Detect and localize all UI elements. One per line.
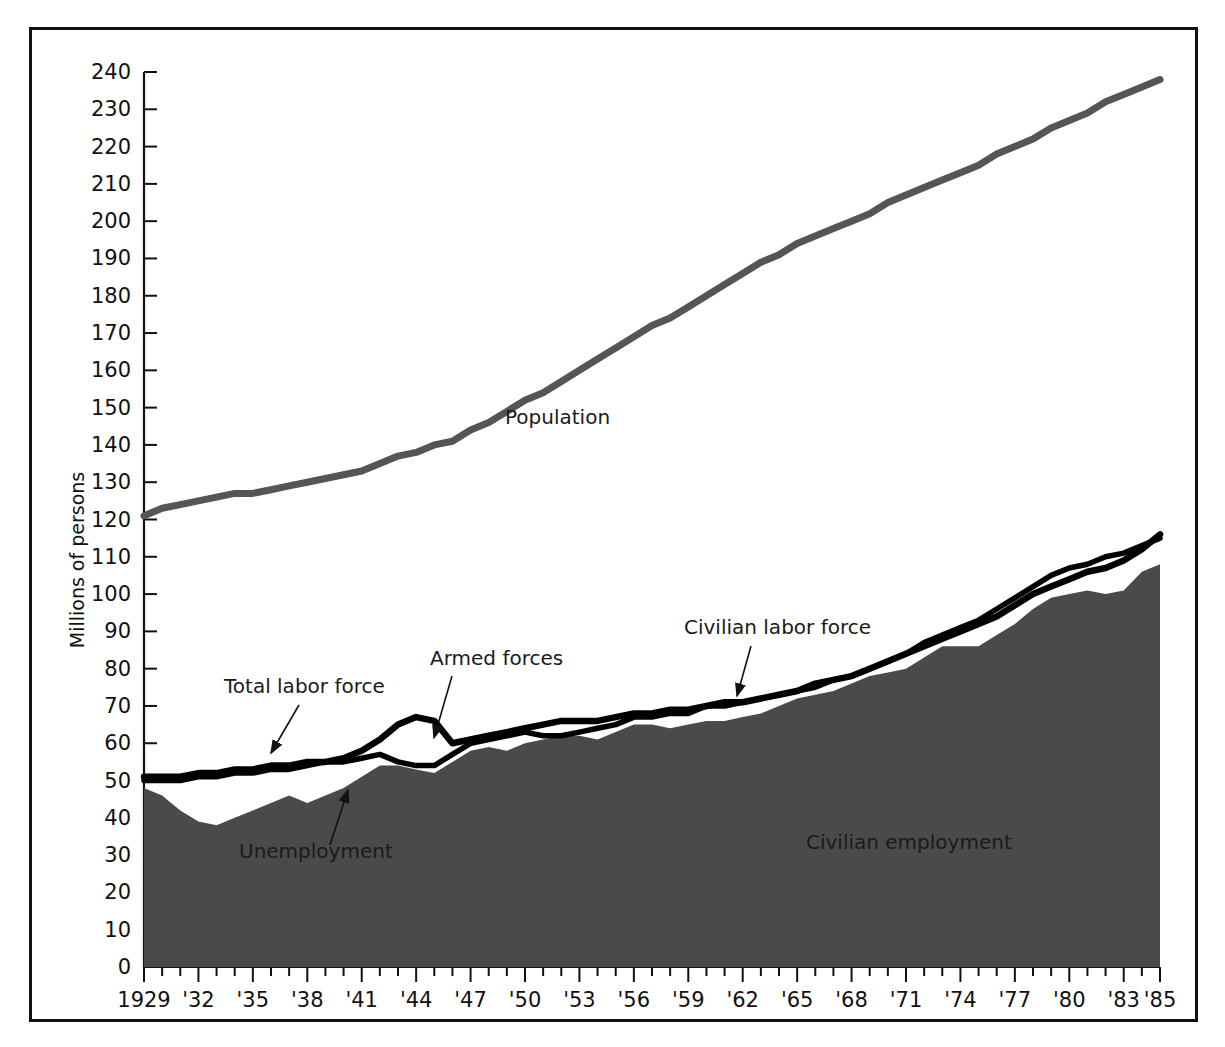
y-axis-tick-label: 10 [104,918,131,942]
annotation-label-unemployment: Unemployment [239,839,393,863]
y-axis-tick-label: 180 [91,284,131,308]
annotation-label-civilian-employment: Civilian employment [806,830,1012,854]
y-axis-tick-label: 160 [91,358,131,382]
y-axis-tick-label: 210 [91,172,131,196]
y-axis-tick-label: 110 [91,545,131,569]
annotation-label-armed-forces: Armed forces [430,646,563,670]
y-axis-tick-label: 170 [91,321,131,345]
x-axis-tick-label: '38 [291,988,324,1012]
x-axis-tick-label: 1929 [117,988,170,1012]
x-axis-tick-label: '85 [1144,988,1177,1012]
y-axis-tick-label: 0 [118,955,131,979]
annotation-label-population: Population [505,405,610,429]
x-axis-tick-label: '35 [237,988,270,1012]
x-axis-tick-label: '71 [890,988,923,1012]
labor-force-chart: 0102030405060708090100110120130140150160… [0,0,1225,1047]
y-axis-tick-label: 140 [91,433,131,457]
x-axis-tick-label: '32 [182,988,215,1012]
annotation-label-total-labor-force: Total labor force [223,674,385,698]
y-axis-tick-label: 230 [91,97,131,121]
y-axis-tick-label: 20 [104,880,131,904]
y-axis-tick-label: 100 [91,582,131,606]
x-axis-tick-label: '80 [1053,988,1086,1012]
x-axis-tick-label: '74 [944,988,977,1012]
y-axis-tick-label: 240 [91,60,131,84]
x-axis-tick-label: '68 [835,988,868,1012]
y-axis-tick-label: 190 [91,246,131,270]
annotation-leader-total-labor-force [271,705,299,753]
x-axis-tick-label: '47 [454,988,487,1012]
x-axis-tick-label: '56 [618,988,651,1012]
y-axis-tick-label: 130 [91,470,131,494]
x-axis-tick-label: '62 [726,988,759,1012]
y-axis-tick-label: 120 [91,508,131,532]
annotation-leader-civilian-labor-force [737,646,751,696]
x-axis-tick-label: '44 [400,988,433,1012]
y-axis-tick-label: 150 [91,396,131,420]
y-axis-tick-label: 200 [91,209,131,233]
y-axis-tick-label: 70 [104,694,131,718]
y-axis-tick-label: 220 [91,135,131,159]
x-axis: 1929'32'35'38'41'44'47'50'53'56'59'62'65… [117,967,1176,1012]
y-axis-title: Millions of persons [66,472,88,649]
population-line [144,80,1160,516]
y-axis-tick-label: 40 [104,806,131,830]
x-axis-tick-label: '65 [781,988,814,1012]
y-axis-tick-label: 80 [104,657,131,681]
x-axis-tick-label: '83 [1107,988,1140,1012]
annotation-label-civilian-labor-force: Civilian labor force [684,615,871,639]
x-axis-tick-label: '77 [999,988,1032,1012]
y-axis-tick-label: 30 [104,843,131,867]
x-axis-tick-label: '41 [345,988,378,1012]
x-axis-tick-label: '50 [509,988,542,1012]
y-axis-tick-label: 50 [104,769,131,793]
x-axis-tick-label: '59 [672,988,705,1012]
y-axis-tick-label: 90 [104,619,131,643]
y-axis-tick-label: 60 [104,731,131,755]
x-axis-tick-label: '53 [563,988,596,1012]
